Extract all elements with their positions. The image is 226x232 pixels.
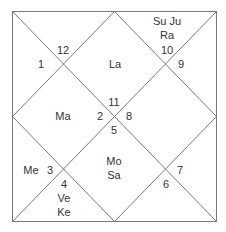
house-4-planets: Ma [55, 110, 70, 123]
house-11-sign: 10 [161, 44, 173, 57]
house-11-planets-2: Ra [160, 29, 174, 42]
house-7-sign: 5 [111, 124, 117, 137]
house-1-planets: La [109, 58, 121, 71]
house-7-planets-2: Sa [107, 169, 120, 182]
house-11-planets-1: Su Ju [153, 15, 181, 28]
house-5-planets: Me [23, 164, 38, 177]
house-9b-sign: 6 [163, 178, 169, 191]
house-5-sign: 3 [47, 164, 53, 177]
house-7-planets-1: Mo [106, 155, 121, 168]
chart-grid [0, 0, 226, 232]
house-12-sign: 1 [38, 58, 44, 71]
house-4-sign: 2 [97, 110, 103, 123]
house-6-planets-2: Ke [57, 206, 70, 219]
house-1-sign: 11 [108, 96, 119, 109]
house-6-sign: 4 [61, 178, 67, 191]
house-6-planets-1: Ve [58, 192, 71, 205]
house-8-sign: 7 [177, 164, 183, 177]
house-10-sign: 8 [126, 110, 132, 123]
house-2-sign: 12 [57, 44, 69, 57]
house-9-sign: 9 [178, 58, 184, 71]
